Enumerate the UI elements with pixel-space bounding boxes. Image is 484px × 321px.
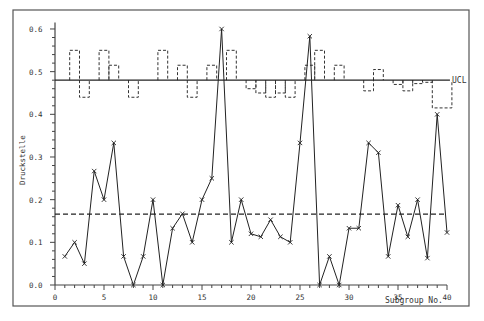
ucl-step — [99, 50, 109, 80]
y-tick-label: 0.2 — [29, 196, 43, 205]
y-tick-label: 0.0 — [29, 281, 43, 290]
ucl-step — [432, 80, 452, 108]
data-point-marker — [72, 240, 76, 244]
y-tick-label: 0.4 — [29, 110, 43, 119]
ucl-step — [70, 50, 80, 80]
ucl-step — [315, 50, 325, 80]
x-axis-label: Subgroup No. — [385, 296, 443, 305]
ucl-step — [178, 65, 188, 80]
x-tick-label: 40 — [442, 293, 452, 302]
ucl-step — [256, 80, 266, 93]
control-chart: 0.00.10.20.30.40.50.60510152025303540 UC… — [0, 0, 484, 321]
ucl-step — [374, 70, 384, 81]
ucl-step — [80, 80, 90, 97]
ucl-step — [207, 65, 217, 80]
ucl-step — [227, 50, 237, 80]
data-line — [65, 29, 447, 285]
ucl-step — [266, 80, 276, 97]
ucl-step — [403, 80, 413, 91]
x-tick-label: 5 — [102, 293, 107, 302]
y-axis-label: Druckstelle — [18, 135, 27, 185]
ucl-step — [364, 80, 374, 91]
y-tick-label: 0.3 — [29, 153, 43, 162]
y-tick-label: 0.5 — [29, 68, 43, 77]
data-point-marker — [268, 218, 272, 222]
ucl-step — [158, 50, 168, 80]
x-tick-label: 15 — [197, 293, 206, 302]
ucl-step — [334, 65, 344, 80]
x-tick-label: 25 — [295, 293, 304, 302]
x-tick-label: 20 — [246, 293, 256, 302]
axes: 0.00.10.20.30.40.50.60510152025303540 — [29, 23, 452, 302]
ucl-step — [109, 65, 119, 80]
x-tick-label: 0 — [53, 293, 58, 302]
ucl-label: UCL — [452, 76, 467, 85]
ucl-step — [393, 80, 403, 84]
ucl-step — [187, 80, 197, 97]
ucl-step — [246, 80, 256, 89]
ucl-step — [285, 80, 295, 97]
ucl-step-series — [70, 50, 452, 108]
ucl-step — [276, 80, 286, 93]
x-tick-label: 10 — [148, 293, 158, 302]
y-tick-label: 0.1 — [29, 238, 43, 247]
y-tick-label: 0.6 — [29, 25, 43, 34]
data-series — [63, 27, 450, 287]
x-tick-label: 30 — [344, 293, 354, 302]
data-point-marker — [278, 235, 282, 239]
ucl-step — [129, 80, 139, 97]
chart-border — [13, 10, 469, 306]
data-point-marker — [63, 254, 67, 258]
